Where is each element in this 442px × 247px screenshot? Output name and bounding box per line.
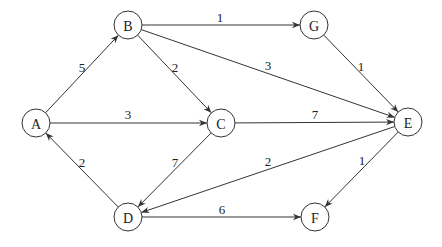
- node-label: G: [309, 19, 319, 34]
- node-label: C: [216, 117, 225, 132]
- edge-weight-a-c: 3: [125, 107, 132, 122]
- edge-weight-c-e: 7: [312, 107, 319, 122]
- edge-weight-d-a: 2: [79, 155, 86, 170]
- edge-e-f: [325, 132, 398, 207]
- node-label: E: [404, 116, 413, 131]
- edge-weight-b-e: 3: [265, 58, 272, 73]
- edge-weight-e-f: 1: [359, 153, 366, 168]
- edge-d-a: [46, 133, 118, 207]
- node-a: A: [22, 109, 50, 137]
- edge-weight-g-e: 1: [358, 59, 365, 74]
- edge-weight-b-c: 2: [172, 60, 179, 75]
- edge-c-d: [138, 133, 211, 207]
- node-b: B: [114, 11, 142, 39]
- nodes-layer: ABCGEDF: [22, 11, 422, 231]
- node-f: F: [301, 203, 329, 231]
- edge-c-e: [235, 122, 394, 123]
- edge-weight-e-d: 2: [265, 154, 272, 169]
- node-e: E: [394, 108, 422, 136]
- edge-weight-c-d: 7: [172, 155, 179, 170]
- graph-diagram: 512313772216 ABCGEDF: [0, 0, 442, 247]
- node-label: A: [31, 117, 42, 132]
- edge-b-e: [141, 30, 395, 118]
- node-label: D: [123, 211, 133, 226]
- edge-weight-a-b: 5: [79, 60, 86, 75]
- edge-weight-b-g: 1: [217, 10, 224, 25]
- edge-weight-d-f: 6: [219, 202, 226, 217]
- node-label: B: [123, 19, 132, 34]
- node-d: D: [114, 203, 142, 231]
- node-c: C: [207, 109, 235, 137]
- edge-e-d: [141, 126, 394, 212]
- edge-g-e: [324, 35, 399, 112]
- node-g: G: [300, 11, 328, 39]
- node-label: F: [311, 211, 319, 226]
